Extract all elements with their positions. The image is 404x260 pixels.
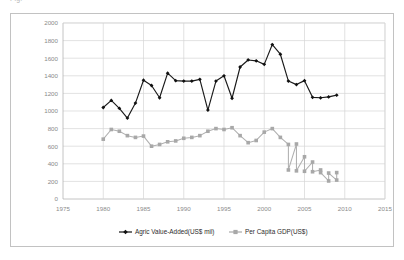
y-tick-label: 800 bbox=[48, 125, 59, 132]
data-point-marker bbox=[126, 134, 130, 138]
y-tick-label: 2000 bbox=[44, 19, 58, 26]
x-tick-label: 2000 bbox=[257, 205, 271, 212]
data-point-marker bbox=[287, 168, 291, 172]
data-point-marker bbox=[142, 134, 146, 138]
caption-fragment: Fig. bbox=[10, 0, 22, 2]
y-tick-label: 200 bbox=[48, 178, 59, 185]
data-point-marker bbox=[230, 96, 234, 100]
plot-area: 0200400600800100012001400160018002000 19… bbox=[11, 14, 395, 248]
data-point-marker bbox=[182, 136, 186, 140]
data-point-marker bbox=[295, 142, 299, 146]
data-point-marker bbox=[214, 127, 218, 131]
x-tick-label: 1980 bbox=[96, 205, 110, 212]
data-point-marker bbox=[158, 143, 162, 147]
series-line bbox=[103, 128, 336, 181]
y-tick-label: 1200 bbox=[44, 90, 58, 97]
legend-label: Per Capita GDP(US$) bbox=[245, 228, 308, 236]
series-line bbox=[103, 45, 336, 118]
data-point-marker bbox=[327, 95, 331, 99]
x-tick-label: 1985 bbox=[137, 205, 151, 212]
x-tick-label: 2005 bbox=[298, 205, 312, 212]
data-point-marker bbox=[327, 171, 331, 175]
data-point-marker bbox=[303, 169, 307, 173]
data-point-marker bbox=[295, 169, 299, 173]
x-tick-label: 2010 bbox=[338, 205, 352, 212]
y-tick-label: 1400 bbox=[44, 72, 58, 79]
data-point-marker bbox=[262, 130, 266, 134]
data-point-marker bbox=[238, 134, 242, 138]
data-point-marker bbox=[166, 140, 170, 144]
y-tick-label: 600 bbox=[48, 143, 59, 150]
data-point-marker bbox=[311, 160, 315, 164]
data-point-marker bbox=[230, 126, 234, 130]
data-point-marker bbox=[303, 79, 307, 83]
data-point-marker bbox=[311, 170, 315, 174]
data-point-marker bbox=[206, 108, 210, 112]
data-point-marker bbox=[246, 141, 250, 145]
line-chart: 0200400600800100012001400160018002000 19… bbox=[11, 14, 395, 248]
data-point-marker bbox=[335, 178, 339, 182]
y-axis-ticks: 0200400600800100012001400160018002000 bbox=[44, 19, 58, 202]
legend-label: Agric Value-Added(US$ mil) bbox=[135, 228, 214, 236]
y-tick-label: 0 bbox=[55, 195, 59, 202]
x-tick-label: 1990 bbox=[177, 205, 191, 212]
data-point-marker bbox=[335, 171, 339, 175]
x-tick-label: 2015 bbox=[378, 205, 392, 212]
data-point-marker bbox=[295, 83, 299, 87]
y-tick-label: 1000 bbox=[44, 107, 58, 114]
data-point-marker bbox=[311, 95, 315, 99]
data-point-marker bbox=[190, 79, 194, 83]
data-point-marker bbox=[118, 129, 122, 133]
series-group bbox=[101, 43, 338, 183]
x-tick-label: 1975 bbox=[56, 205, 70, 212]
data-point-marker bbox=[319, 96, 323, 100]
data-point-marker bbox=[174, 139, 178, 143]
chart-legend: Agric Value-Added(US$ mil)Per Capita GDP… bbox=[119, 228, 308, 236]
data-point-marker bbox=[335, 93, 339, 97]
data-point-marker bbox=[222, 128, 226, 132]
chart-frame: 0200400600800100012001400160018002000 19… bbox=[10, 13, 394, 247]
data-point-marker bbox=[319, 171, 323, 175]
caption-strip: Fig. bbox=[0, 0, 404, 11]
data-point-marker bbox=[303, 155, 307, 159]
data-point-marker bbox=[262, 62, 266, 66]
data-point-marker bbox=[198, 77, 202, 81]
data-point-marker bbox=[287, 79, 291, 83]
data-point-marker bbox=[134, 136, 138, 140]
data-point-marker bbox=[110, 128, 114, 132]
data-point-marker bbox=[190, 136, 194, 140]
x-axis-ticks: 197519801985199019952000200520102015 bbox=[56, 205, 392, 212]
legend-marker bbox=[123, 230, 128, 235]
data-point-marker bbox=[206, 129, 210, 133]
data-point-marker bbox=[327, 179, 331, 183]
legend-marker bbox=[233, 230, 237, 234]
data-point-marker bbox=[254, 139, 258, 143]
data-point-marker bbox=[287, 143, 291, 147]
data-point-marker bbox=[198, 134, 202, 138]
data-point-marker bbox=[271, 127, 275, 131]
data-point-marker bbox=[150, 144, 154, 148]
x-tick-label: 1995 bbox=[217, 205, 231, 212]
y-tick-label: 1600 bbox=[44, 55, 58, 62]
y-tick-label: 1800 bbox=[44, 37, 58, 44]
data-point-marker bbox=[279, 136, 283, 140]
data-point-marker bbox=[254, 59, 258, 63]
y-tick-label: 400 bbox=[48, 160, 59, 167]
data-point-marker bbox=[101, 137, 105, 141]
data-point-marker bbox=[182, 79, 186, 83]
